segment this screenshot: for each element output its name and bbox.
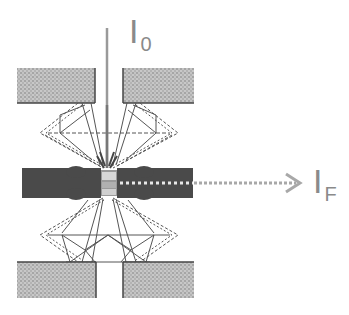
diamond-anvil-cell-diagram: I0 IF xyxy=(0,0,349,315)
lower-diamond-anvil xyxy=(40,198,178,262)
upper-backing-plate-left xyxy=(17,68,95,103)
upper-backing-plate-right xyxy=(123,68,194,103)
lower-backing-plate-right xyxy=(123,262,194,298)
sample-chamber xyxy=(101,170,117,196)
fluorescence-beam xyxy=(194,174,300,192)
fluorescence-intensity-label: IF xyxy=(313,164,337,198)
lower-backing-plate-left xyxy=(17,262,96,298)
upper-diamond-anvil xyxy=(40,103,178,168)
incident-intensity-label: I0 xyxy=(129,14,152,48)
